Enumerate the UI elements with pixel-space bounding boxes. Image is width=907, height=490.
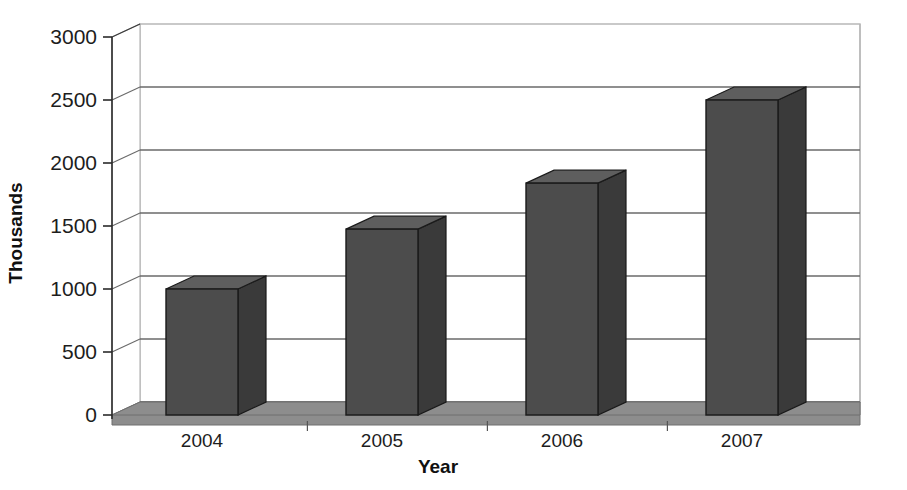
bar-side-face xyxy=(418,216,446,415)
bar-front-face xyxy=(346,229,418,415)
bar-chart-figure: 050010001500200025003000 200420052006200… xyxy=(0,0,907,490)
bar-side-face xyxy=(238,276,266,415)
y-tick-label: 2000 xyxy=(50,151,97,174)
y-tick-label: 1500 xyxy=(50,214,97,237)
bar xyxy=(526,170,626,415)
chart-canvas: 050010001500200025003000 200420052006200… xyxy=(0,0,907,490)
x-tick-label: 2004 xyxy=(181,430,224,451)
y-tick-label: 1000 xyxy=(50,277,97,300)
bar-side-face xyxy=(778,87,806,415)
bar-front-face xyxy=(166,289,238,415)
y-tick-label: 500 xyxy=(62,340,97,363)
bar xyxy=(706,87,806,415)
y-tick-label: 3000 xyxy=(50,25,97,48)
x-tick-label: 2005 xyxy=(361,430,403,451)
y-tick-label: 2500 xyxy=(50,88,97,111)
bar xyxy=(346,216,446,415)
y-tick-label: 0 xyxy=(85,403,97,426)
bar xyxy=(166,276,266,415)
bar-side-face xyxy=(598,170,626,415)
bar-front-face xyxy=(706,100,778,415)
x-tick-label: 2006 xyxy=(541,430,583,451)
x-tick-label: 2007 xyxy=(721,430,763,451)
y-axis-title: Thousands xyxy=(5,182,26,283)
bar-front-face xyxy=(526,183,598,415)
x-axis-title: Year xyxy=(418,456,459,477)
